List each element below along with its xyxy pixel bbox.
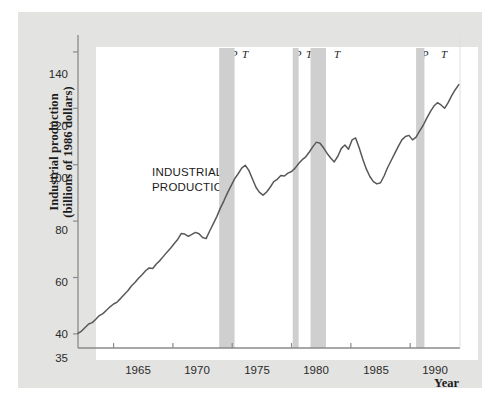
recession-band-4 xyxy=(416,48,424,348)
series-line-group xyxy=(78,85,459,334)
chart-svg xyxy=(0,0,498,400)
recession-bands-group xyxy=(219,48,424,348)
recession-band-1 xyxy=(219,48,234,348)
recession-band-3 xyxy=(311,48,326,348)
recession-band-2 xyxy=(293,48,299,348)
series-line-0 xyxy=(78,85,459,334)
figure-container: Industrial production (billions of 1986 … xyxy=(0,0,498,400)
